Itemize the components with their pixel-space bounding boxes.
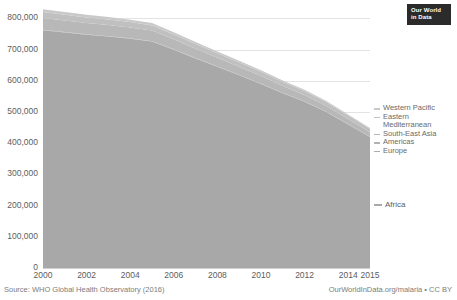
legend-swatch <box>374 117 380 119</box>
footer: Source: WHO Global Health Observatory (2… <box>0 285 457 297</box>
x-axis-tick-label: 2008 <box>208 270 227 280</box>
legend-label: Europe <box>383 147 407 156</box>
x-axis-tick-label: 2002 <box>77 270 96 280</box>
plot-area <box>43 6 370 268</box>
x-axis-tick-label: 2010 <box>252 270 271 280</box>
stacked-area-svg <box>43 6 370 268</box>
x-axis-tick-label: 2000 <box>34 270 53 280</box>
y-axis-tick-label: 600,000 <box>7 76 38 85</box>
legend-swatch <box>374 134 380 136</box>
y-axis-tick-label: 100,000 <box>7 232 38 241</box>
legend-item-europe[interactable]: Europe <box>374 147 457 156</box>
logo-line-1: Our World <box>411 7 451 14</box>
legend-swatch <box>374 142 380 144</box>
our-world-in-data-logo[interactable]: Our World in Data <box>407 4 451 25</box>
x-axis-tick-label: 2014 <box>339 270 358 280</box>
legend: Western PacificEastern MediterraneanSout… <box>374 104 457 156</box>
legend-label-africa: Africa <box>385 200 405 209</box>
x-axis-tick-label: 2004 <box>121 270 140 280</box>
legend-label: Eastern Mediterranean <box>383 113 455 130</box>
legend-item-africa[interactable]: Africa <box>374 200 405 209</box>
chart-root: Our World in Data 0100,000200,000300,000… <box>0 0 457 300</box>
y-axis-tick-label: 500,000 <box>7 107 38 116</box>
y-axis-tick-label: 700,000 <box>7 45 38 54</box>
area-series-africa <box>43 30 370 268</box>
x-axis-tick-label: 2006 <box>164 270 183 280</box>
x-axis-line <box>43 268 370 269</box>
x-axis-tick-label: 2012 <box>295 270 314 280</box>
x-axis: 200020022004200620082010201220142015 <box>0 270 457 284</box>
logo-line-2: in Data <box>411 14 451 21</box>
y-axis-tick-label: 400,000 <box>7 138 38 147</box>
x-axis-tick-label: 2015 <box>361 270 380 280</box>
y-axis: 0100,000200,000300,000400,000500,000600,… <box>0 0 43 300</box>
source-note: Source: WHO Global Health Observatory (2… <box>4 285 164 294</box>
license-note[interactable]: OurWorldInData.org/malaria • CC BY <box>329 285 452 294</box>
legend-swatch-africa <box>374 204 382 206</box>
legend-swatch <box>374 151 380 153</box>
legend-item-eastern-mediterranean[interactable]: Eastern Mediterranean <box>374 113 457 130</box>
y-axis-tick-label: 200,000 <box>7 201 38 210</box>
legend-swatch <box>374 108 380 110</box>
y-axis-tick-label: 800,000 <box>7 13 38 22</box>
y-axis-tick-label: 300,000 <box>7 169 38 178</box>
